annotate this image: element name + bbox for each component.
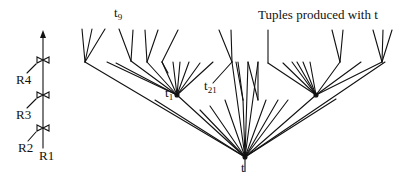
join-plan (27, 30, 49, 148)
root-node (243, 155, 247, 159)
node-label-t21: t21 (204, 79, 217, 92)
tuple-tree (82, 29, 392, 172)
node-right (314, 93, 318, 97)
node-label-t1: t1 (165, 86, 173, 99)
relation-label-r1: R1 (39, 149, 54, 162)
relation-label-r3: R3 (16, 108, 31, 121)
root-label-t: t (241, 161, 245, 172)
relation-label-r2: R2 (18, 141, 33, 154)
up-arrow-icon (40, 30, 46, 38)
relation-label-r4: R4 (16, 73, 31, 86)
diagram-title: Tuples produced with t (258, 8, 378, 21)
node-label-t9: t9 (114, 6, 122, 19)
node-t1 (175, 93, 179, 97)
